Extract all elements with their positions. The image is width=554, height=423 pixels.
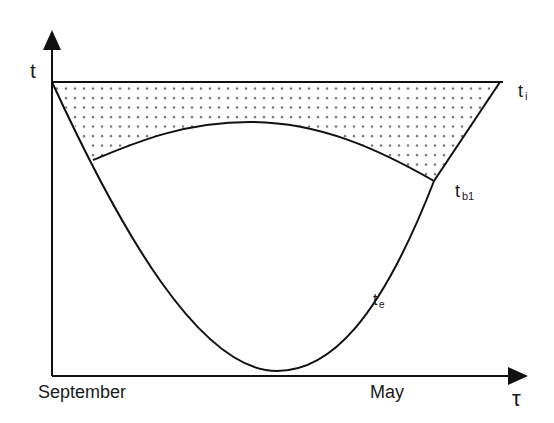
label-t-b1: t b1: [455, 181, 474, 202]
x-start-label: September: [38, 382, 126, 402]
shaded-region: [52, 84, 502, 184]
x-axis-arrow-icon: [508, 367, 528, 385]
y-axis-label: t: [30, 59, 36, 82]
y-axis-arrow-icon: [43, 30, 61, 50]
x-axis-label: τ: [512, 386, 521, 411]
svg-text:e: e: [379, 299, 385, 310]
svg-text:t: t: [455, 181, 460, 201]
svg-text:t: t: [373, 291, 378, 308]
svg-text:i: i: [525, 90, 527, 102]
x-end-label: May: [370, 382, 404, 402]
svg-text:b1: b1: [462, 190, 474, 202]
heating-season-diagram: t τ September May t i t b1 t e: [0, 0, 554, 423]
label-t-i: t i: [518, 81, 527, 102]
svg-text:t: t: [518, 81, 523, 101]
